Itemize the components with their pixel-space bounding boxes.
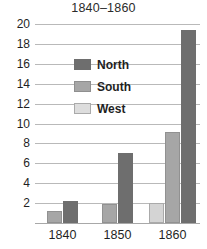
plot-area	[35, 24, 200, 223]
legend-item-south: South	[74, 77, 131, 96]
y-axis-tick-label: 14	[0, 77, 30, 91]
y-axis-tick-label: 18	[0, 37, 30, 51]
y-axis-tick-label: 20	[0, 17, 30, 31]
bar-south-1850	[102, 204, 117, 223]
legend-swatch-icon	[74, 81, 91, 92]
legend-item-west: West	[74, 99, 131, 118]
bar-north-1840	[63, 201, 78, 223]
legend-swatch-icon	[74, 103, 91, 114]
legend-swatch-icon	[74, 59, 91, 70]
bar-south-1860	[165, 132, 180, 223]
x-axis-tick-label: 1850	[104, 228, 132, 242]
legend-item-north: North	[74, 55, 131, 74]
gridline	[35, 24, 200, 25]
y-axis-tick-label: 8	[0, 136, 30, 150]
gridline	[35, 124, 200, 125]
y-axis-tick-label: 6	[0, 156, 30, 170]
bar-west-1860	[149, 203, 164, 223]
x-axis-tick-label: 1840	[49, 228, 77, 242]
gridline	[35, 44, 200, 45]
bar-north-1860	[181, 30, 196, 223]
axis-baseline	[35, 223, 200, 224]
y-axis-tick-label: 4	[0, 176, 30, 190]
y-axis-tick-label: 16	[0, 57, 30, 71]
chart-legend: NorthSouthWest	[74, 55, 131, 121]
legend-item-label: South	[97, 80, 131, 94]
chart-title: 1840–1860	[0, 1, 207, 15]
y-axis-tick-label: 2	[0, 196, 30, 210]
y-axis-tick-label: 10	[0, 117, 30, 131]
legend-item-label: North	[97, 58, 129, 72]
y-axis-tick-label: 12	[0, 97, 30, 111]
bar-north-1850	[118, 153, 133, 223]
bar-chart: 1840–1860 2018161412108642 184018501860 …	[0, 0, 207, 249]
legend-item-label: West	[97, 102, 125, 116]
x-axis-tick-label: 1860	[159, 228, 187, 242]
bar-south-1840	[47, 211, 62, 223]
